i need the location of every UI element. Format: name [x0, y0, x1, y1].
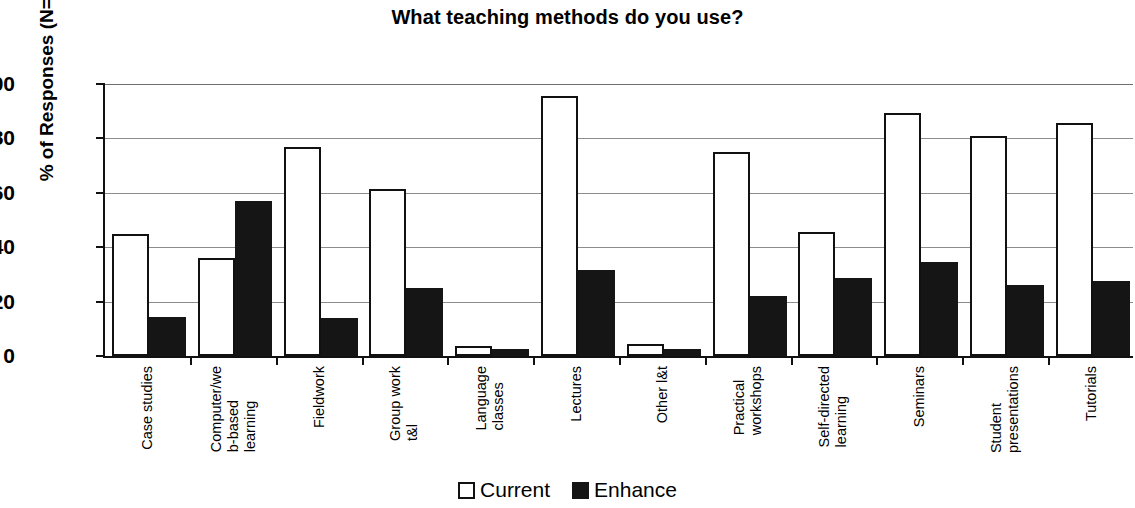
- category-tick: [1048, 356, 1050, 365]
- bar-enhance: [921, 262, 958, 356]
- bar-group: [970, 84, 1044, 356]
- category-tick: [962, 356, 964, 365]
- bar-current: [369, 189, 406, 356]
- chart-legend: CurrentEnhance: [0, 478, 1135, 502]
- bar-group: [198, 84, 272, 356]
- bar-current: [1056, 123, 1093, 356]
- bar-enhance: [492, 349, 529, 356]
- category-tick: [791, 356, 793, 365]
- category-tick: [276, 356, 278, 365]
- bar-group: [1056, 84, 1130, 356]
- category-tick: [705, 356, 707, 365]
- plot-area: 100806040200: [103, 84, 1133, 358]
- y-tick-mark: [96, 301, 105, 303]
- bar-group: [284, 84, 358, 356]
- category-tick: [447, 356, 449, 365]
- bar-enhance: [664, 349, 701, 356]
- x-axis-labels: Case studiesComputer/web-basedlearningFi…: [103, 366, 1131, 474]
- bar-enhance: [406, 288, 443, 356]
- bar-current: [713, 152, 750, 356]
- bar-enhance: [235, 201, 272, 356]
- bar-current: [884, 113, 921, 356]
- y-tick-label: 80: [0, 127, 15, 148]
- legend-item[interactable]: Enhance: [572, 478, 677, 502]
- y-tick-label: 40: [0, 236, 15, 257]
- legend-label: Enhance: [594, 478, 677, 502]
- category-tick: [619, 356, 621, 365]
- bar-group: [541, 84, 615, 356]
- bar-group: [455, 84, 529, 356]
- bar-enhance: [321, 318, 358, 356]
- bar-chart: What teaching methods do you use? % of R…: [0, 0, 1135, 508]
- bar-enhance: [1093, 281, 1130, 356]
- bar-enhance: [835, 278, 872, 356]
- bar-current: [541, 96, 578, 356]
- filled-square-swatch: [572, 482, 589, 499]
- bar-enhance: [750, 296, 787, 356]
- bar-current: [284, 147, 321, 356]
- y-tick-mark: [96, 246, 105, 248]
- category-tick: [533, 356, 535, 365]
- bar-group: [369, 84, 443, 356]
- y-tick-label: 60: [0, 182, 15, 203]
- category-tick: [876, 356, 878, 365]
- bar-current: [627, 344, 664, 356]
- bar-group: [112, 84, 186, 356]
- bar-current: [970, 136, 1007, 356]
- y-tick-mark: [96, 192, 105, 194]
- legend-label: Current: [480, 478, 550, 502]
- y-tick-mark: [96, 83, 105, 85]
- bar-group: [798, 84, 872, 356]
- bar-current: [798, 232, 835, 356]
- y-tick-label: 100: [0, 73, 15, 94]
- bar-enhance: [1007, 285, 1044, 356]
- chart-title: What teaching methods do you use?: [0, 6, 1135, 29]
- bar-current: [112, 234, 149, 356]
- bar-enhance: [578, 270, 615, 356]
- bar-current: [455, 346, 492, 356]
- bar-group: [627, 84, 701, 356]
- category-tick: [362, 356, 364, 365]
- bar-enhance: [149, 317, 186, 356]
- y-tick-mark: [96, 137, 105, 139]
- x-axis-label: Tutorials: [1039, 366, 1135, 470]
- y-tick-mark: [96, 355, 105, 357]
- bar-group: [713, 84, 787, 356]
- y-axis-title: % of Responses (N=98): [36, 0, 58, 221]
- y-tick-label: 20: [0, 291, 15, 312]
- y-tick-label: 0: [0, 345, 15, 366]
- bar-current: [198, 258, 235, 356]
- legend-item[interactable]: Current: [458, 478, 550, 502]
- category-tick: [190, 356, 192, 365]
- bar-group: [884, 84, 958, 356]
- open-square-swatch: [458, 482, 475, 499]
